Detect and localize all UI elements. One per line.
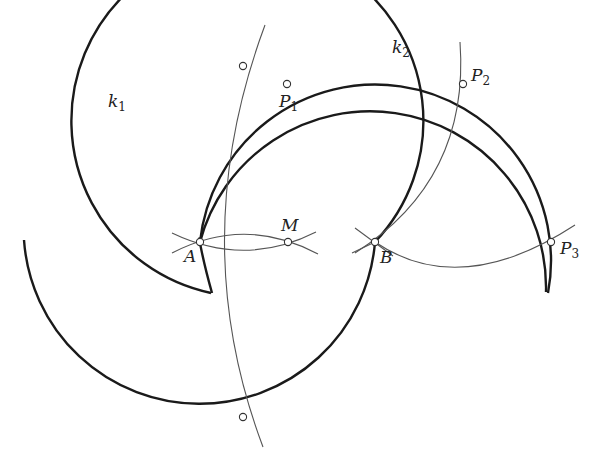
- construction-diagram: k1 k2 P1 P2 P3 A M B: [0, 0, 602, 465]
- point-P2: [459, 80, 466, 87]
- construction-arc-left: [224, 25, 265, 447]
- point-M: [284, 238, 291, 245]
- points: [196, 62, 554, 420]
- circle-k2: [199, 111, 546, 293]
- point-k1-top: [239, 62, 246, 69]
- label-P3: P3: [559, 238, 579, 261]
- label-M: M: [280, 215, 299, 235]
- construction-arc-b-p2: [355, 42, 461, 253]
- label-B: B: [379, 247, 393, 267]
- point-P1: [283, 80, 290, 87]
- label-k1: k1: [108, 91, 126, 114]
- circle-k1-lower: [24, 240, 375, 404]
- point-B: [371, 238, 378, 245]
- circle-k1: [71, 0, 423, 293]
- label-P1: P1: [278, 91, 298, 114]
- point-P3: [547, 238, 554, 245]
- label-A: A: [182, 246, 196, 266]
- diagram-canvas: k1 k2 P1 P2 P3 A M B: [0, 0, 602, 465]
- label-k2: k2: [392, 37, 410, 60]
- point-k1-bottom: [239, 413, 246, 420]
- label-P2: P2: [470, 65, 490, 88]
- point-A: [196, 238, 203, 245]
